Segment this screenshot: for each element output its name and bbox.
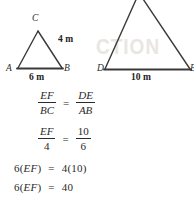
numerator: EF [38, 90, 55, 102]
equation-line-3: 6( EF ) = 4(10) [14, 162, 87, 174]
denominator: AB [77, 103, 94, 116]
dimension-label-de: 10 m [131, 73, 151, 83]
fraction-10-over-6: 10 6 [76, 126, 91, 152]
numerator: 10 [76, 126, 91, 138]
denominator: 6 [78, 139, 88, 152]
vertex-label-d: D [97, 64, 104, 74]
vertex-label-a: A [6, 64, 12, 74]
close-paren: ) [37, 162, 41, 174]
side-AC [18, 31, 38, 68]
equals-sign: = [62, 133, 68, 145]
equals-sign: = [63, 97, 69, 109]
equals-sign: = [48, 181, 54, 193]
variable-ef: EF [24, 162, 38, 174]
side-FE [139, 0, 190, 69]
triangle-DEF-shape [104, 0, 191, 70]
geometry-figure-area: CTION C A B 6 m 4 m D E 10 m [0, 0, 194, 88]
variable-ef: EF [24, 181, 38, 193]
numerator: EF [38, 126, 55, 138]
triangle-ABC-shape [17, 31, 63, 69]
coefficient: 6( [14, 181, 24, 193]
denominator: 4 [42, 139, 52, 152]
result-value: 4(10) [62, 162, 87, 174]
equation-steps: EF BC = DE AB EF 4 = 10 6 6( EF ) = 4(10… [0, 88, 194, 205]
equation-line-1: EF BC = DE AB [38, 90, 95, 116]
denominator: BC [38, 103, 56, 116]
fraction-de-over-ab: DE AB [76, 90, 95, 116]
vertex-label-e: E [190, 64, 194, 74]
dimension-label-bc: 4 m [58, 35, 73, 45]
coefficient: 6( [14, 162, 24, 174]
side-DF [105, 0, 139, 69]
vertex-label-b: B [64, 64, 70, 74]
equation-line-4: 6( EF ) = 40 [14, 181, 73, 193]
equals-sign: = [48, 162, 54, 174]
fraction-ef-over-4: EF 4 [38, 126, 55, 152]
fraction-ef-over-bc: EF BC [38, 90, 56, 116]
result-value: 40 [62, 181, 73, 193]
numerator: DE [76, 90, 95, 102]
vertex-label-c: C [32, 14, 38, 24]
dimension-label-ab: 6 m [29, 73, 44, 83]
close-paren: ) [37, 181, 41, 193]
equation-line-2: EF 4 = 10 6 [38, 126, 91, 152]
